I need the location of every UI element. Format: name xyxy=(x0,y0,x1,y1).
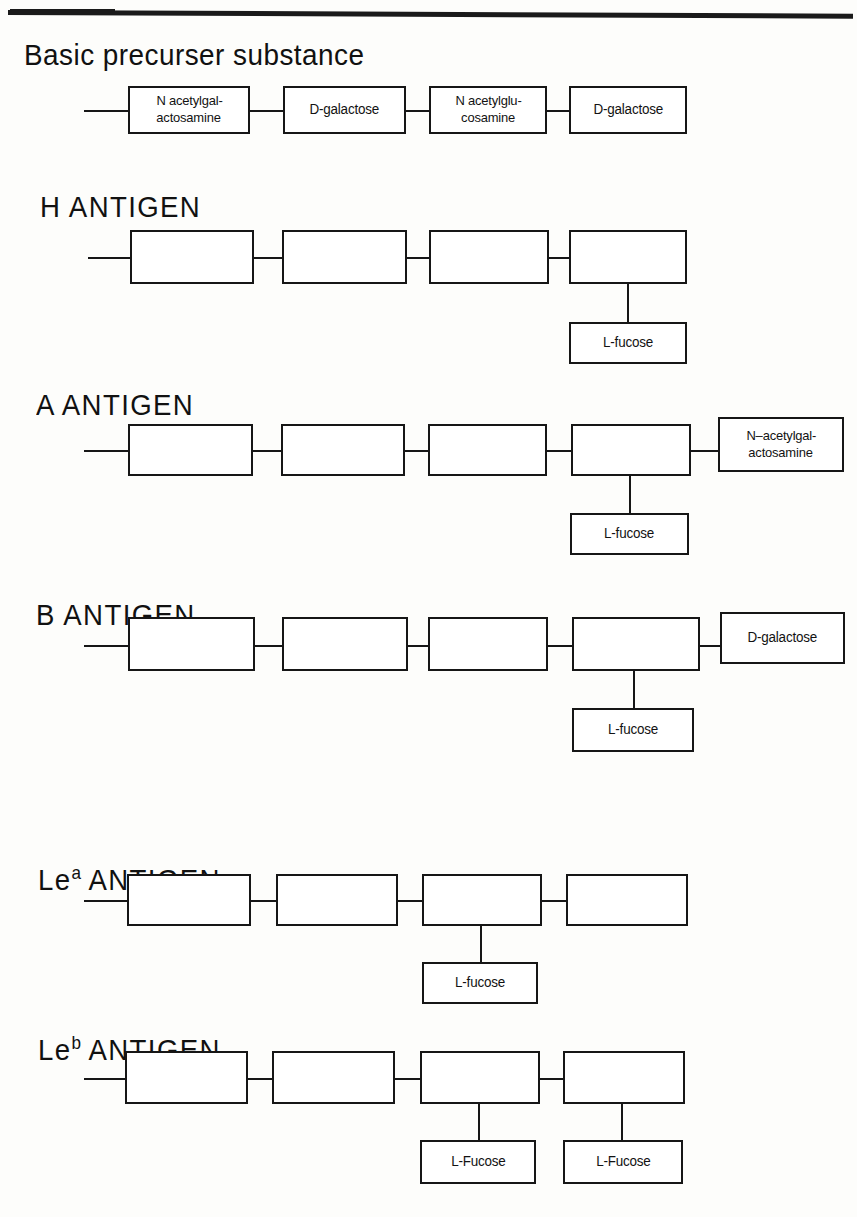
b-chain-box-2 xyxy=(282,617,408,671)
chain-entry-line-h xyxy=(88,257,130,259)
chain-entry-line-b xyxy=(84,645,128,647)
box-line-1: D-galactose xyxy=(748,629,818,647)
connector-lea-3-4 xyxy=(542,900,566,902)
lea-branch-box-fucose: L-fucose xyxy=(422,962,538,1004)
chain-entry-line-leb xyxy=(84,1078,125,1080)
connector-b-3-4 xyxy=(548,645,572,647)
leb-branch-box-fucose-2: L-Fucose xyxy=(563,1140,683,1184)
connector-leb-2-3 xyxy=(395,1078,420,1080)
a-chain-box-4 xyxy=(571,424,691,476)
connector-basic-1-2 xyxy=(250,110,283,112)
chain-entry-line-a xyxy=(84,450,128,452)
lea-chain-box-4 xyxy=(566,874,688,926)
box-line-1: N acetylgal- xyxy=(156,93,222,110)
title-superscript: b xyxy=(71,1032,81,1053)
box-line-1: L-fucose xyxy=(604,525,654,543)
box-line-1: D-galactose xyxy=(310,101,380,119)
a-branch-box-fucose: L-fucose xyxy=(570,513,689,555)
h-chain-box-1 xyxy=(130,230,254,284)
h-chain-box-4 xyxy=(569,230,687,284)
section-title-a-antigen: A ANTIGEN xyxy=(36,388,194,422)
chain-entry-line-basic xyxy=(84,110,130,112)
box-d-galactose-1: D-galactose xyxy=(283,86,406,134)
connector-a-1-2 xyxy=(253,450,281,452)
branch-connector-b-fucose xyxy=(633,671,635,708)
branch-connector-a-fucose xyxy=(629,476,631,513)
box-line-1: N acetylglu- xyxy=(455,93,521,110)
branch-connector-leb-fucose-1 xyxy=(478,1104,480,1140)
connector-a-2-3 xyxy=(405,450,428,452)
a-chain-box-3 xyxy=(428,424,547,476)
top-horizontal-rule-segment xyxy=(10,9,115,13)
branch-connector-leb-fucose-2 xyxy=(621,1104,623,1140)
leb-chain-box-3 xyxy=(420,1051,540,1104)
connector-b-terminal xyxy=(700,645,720,647)
diagram-page: Basic precurser substance N acetylgal- a… xyxy=(0,0,857,1217)
leb-chain-box-1 xyxy=(125,1051,248,1104)
h-branch-box-fucose: L-fucose xyxy=(569,322,687,364)
box-n-acetylgalactosamine: N acetylgal- actosamine xyxy=(128,86,250,134)
title-prefix: Le xyxy=(38,863,71,896)
connector-a-3-4 xyxy=(547,450,571,452)
connector-b-1-2 xyxy=(255,645,282,647)
leb-chain-box-2 xyxy=(272,1051,395,1104)
lea-chain-box-1 xyxy=(127,874,251,926)
connector-leb-3-4 xyxy=(540,1078,563,1080)
branch-connector-lea-fucose xyxy=(480,926,482,962)
connector-h-3-4 xyxy=(549,257,569,259)
a-chain-box-1 xyxy=(128,424,253,476)
box-line-1: L-fucose xyxy=(455,974,505,992)
box-d-galactose-2: D-galactose xyxy=(569,86,687,134)
box-n-acetylglucosamine: N acetylglu- cosamine xyxy=(429,86,547,134)
box-line-2: actosamine xyxy=(749,445,813,462)
box-line-1: L-Fucose xyxy=(596,1153,650,1171)
box-line-1: L-fucose xyxy=(608,721,658,739)
box-line-1: L-fucose xyxy=(603,334,653,352)
connector-lea-2-3 xyxy=(398,900,422,902)
lea-chain-box-2 xyxy=(276,874,398,926)
connector-leb-1-2 xyxy=(248,1078,272,1080)
box-line-2: cosamine xyxy=(461,110,515,127)
title-prefix: Le xyxy=(38,1033,71,1066)
b-chain-box-4 xyxy=(572,617,700,671)
h-chain-box-2 xyxy=(282,230,407,284)
h-chain-box-3 xyxy=(429,230,549,284)
box-line-2: actosamine xyxy=(157,110,221,127)
branch-connector-h-fucose xyxy=(627,284,629,322)
a-chain-box-2 xyxy=(281,424,405,476)
top-horizontal-rule xyxy=(8,10,853,19)
connector-basic-3-4 xyxy=(547,110,569,112)
b-branch-box-fucose: L-fucose xyxy=(572,708,694,752)
a-terminal-box-n-acetylgalactosamine: N–acetylgal- actosamine xyxy=(718,417,844,472)
chain-entry-line-lea xyxy=(84,900,127,902)
section-title-h-antigen: H ANTIGEN xyxy=(40,190,201,224)
box-line-1: N–acetylgal- xyxy=(746,428,816,445)
b-chain-box-1 xyxy=(128,617,255,671)
section-title-basic-precursor: Basic precurser substance xyxy=(24,38,364,72)
box-line-1: D-galactose xyxy=(593,101,663,119)
connector-b-2-3 xyxy=(408,645,428,647)
connector-h-1-2 xyxy=(254,257,282,259)
title-superscript: a xyxy=(71,862,81,883)
connector-lea-1-2 xyxy=(251,900,276,902)
connector-h-2-3 xyxy=(407,257,429,259)
connector-a-terminal xyxy=(691,450,718,452)
leb-chain-box-4 xyxy=(563,1051,685,1104)
leb-branch-box-fucose-1: L-Fucose xyxy=(420,1140,536,1184)
box-line-1: L-Fucose xyxy=(451,1153,505,1171)
b-chain-box-3 xyxy=(428,617,548,671)
lea-chain-box-3 xyxy=(422,874,542,926)
connector-basic-2-3 xyxy=(406,110,429,112)
b-terminal-box-d-galactose: D-galactose xyxy=(720,612,845,664)
